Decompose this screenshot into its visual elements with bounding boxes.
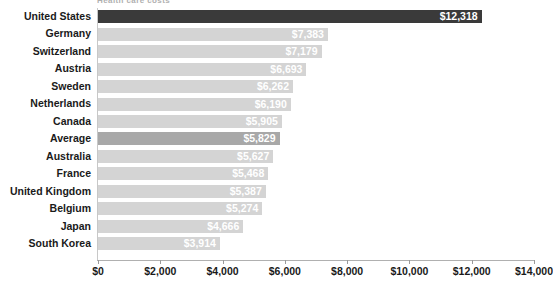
x-tick-mark [472, 260, 473, 264]
bar-chart: Health care costs United States$12,318Ge… [0, 0, 553, 288]
category-label: Switzerland [0, 43, 91, 60]
bar-track: $5,627 [98, 148, 273, 165]
bar-row: Average$5,829 [0, 130, 553, 147]
x-tick-mark [534, 260, 535, 264]
bar-row: Austria$6,693 [0, 60, 553, 77]
bar-row: Sweden$6,262 [0, 78, 553, 95]
x-tick-label: $0 [92, 265, 104, 277]
bar-value-label: $5,274 [226, 202, 258, 215]
bar-track: $6,262 [98, 78, 293, 95]
bar-track: $3,914 [98, 235, 220, 252]
bar-track: $6,693 [98, 60, 306, 77]
bar-row: Switzerland$7,179 [0, 43, 553, 60]
bar-value-label: $6,262 [257, 80, 289, 93]
bar-value-label: $4,666 [207, 220, 239, 233]
bar-row: Germany$7,383 [0, 25, 553, 42]
category-label: South Korea [0, 235, 91, 252]
bar-track: $5,387 [98, 183, 266, 200]
category-label: Austria [0, 60, 91, 77]
x-tick-label: $8,000 [331, 265, 363, 277]
x-tick-mark [223, 260, 224, 264]
bar-track: $12,318 [98, 8, 482, 25]
category-label: Average [0, 130, 91, 147]
category-label: Belgium [0, 200, 91, 217]
bar-track: $7,179 [98, 43, 322, 60]
x-tick-label: $4,000 [207, 265, 239, 277]
category-label: Canada [0, 113, 91, 130]
bar-value-label: $3,914 [184, 237, 216, 250]
bar-value-label: $5,829 [243, 132, 275, 145]
x-tick-label: $12,000 [453, 265, 491, 277]
category-label: Japan [0, 218, 91, 235]
x-tick-mark [347, 260, 348, 264]
bar-row: Canada$5,905 [0, 113, 553, 130]
x-tick-mark [160, 260, 161, 264]
category-label: Netherlands [0, 95, 91, 112]
bar-track: $5,905 [98, 113, 282, 130]
bar-value-label: $6,190 [255, 98, 287, 111]
category-label: Australia [0, 148, 91, 165]
bar-track: $5,829 [98, 130, 280, 147]
bar-value-label: $5,387 [230, 185, 262, 198]
x-tick-mark [285, 260, 286, 264]
x-tick-mark [409, 260, 410, 264]
bar-row: France$5,468 [0, 165, 553, 182]
category-label: France [0, 165, 91, 182]
bar [98, 10, 482, 23]
bar-value-label: $5,627 [237, 150, 269, 163]
bar-value-label: $12,318 [440, 10, 478, 23]
bar-value-label: $5,468 [232, 167, 264, 180]
x-axis: $0$2,000$4,000$6,000$8,000$10,000$12,000… [0, 260, 553, 288]
bar-row: Netherlands$6,190 [0, 95, 553, 112]
x-tick-label: $14,000 [515, 265, 553, 277]
bar-track: $4,666 [98, 218, 243, 235]
bar-row: South Korea$3,914 [0, 235, 553, 252]
bar-value-label: $7,383 [292, 28, 324, 41]
category-label: United Kingdom [0, 183, 91, 200]
category-label: Sweden [0, 78, 91, 95]
bar-row: Belgium$5,274 [0, 200, 553, 217]
x-tick-mark [98, 260, 99, 264]
bar-track: $5,274 [98, 200, 262, 217]
x-tick-label: $10,000 [390, 265, 428, 277]
bar-row: Australia$5,627 [0, 148, 553, 165]
bar-row: United States$12,318 [0, 8, 553, 25]
x-tick-label: $2,000 [144, 265, 176, 277]
bar-value-label: $7,179 [285, 45, 317, 58]
category-label: Germany [0, 25, 91, 42]
bar-value-label: $6,693 [270, 63, 302, 76]
plot-area: United States$12,318Germany$7,383Switzer… [0, 8, 553, 260]
bar-row: Japan$4,666 [0, 218, 553, 235]
category-label: United States [0, 8, 91, 25]
bar-row: United Kingdom$5,387 [0, 183, 553, 200]
chart-title: Health care costs [97, 0, 397, 4]
bar-track: $7,383 [98, 25, 328, 42]
bar-track: $6,190 [98, 95, 291, 112]
bar-track: $5,468 [98, 165, 268, 182]
bar-value-label: $5,905 [246, 115, 278, 128]
x-tick-label: $6,000 [269, 265, 301, 277]
